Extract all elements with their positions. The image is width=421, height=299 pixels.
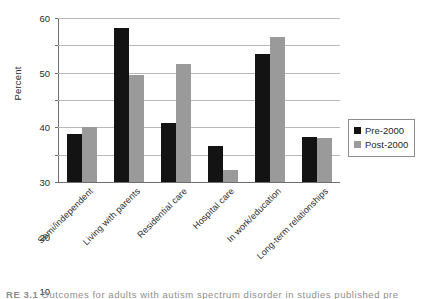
- y-tick-mark: 30: [55, 100, 58, 101]
- bar: [82, 127, 97, 182]
- bar-group: [114, 18, 144, 182]
- figure-caption-text: Outcomes for adults with autism spectrum…: [42, 289, 399, 299]
- y-tick-mark: 20: [55, 127, 58, 128]
- bar: [270, 37, 285, 182]
- figure-caption: RE 3.1 Outcomes for adults with autism s…: [6, 289, 418, 299]
- legend-label: Post-2000: [365, 138, 408, 152]
- bar: [161, 123, 176, 182]
- legend-label: Pre-2000: [365, 124, 404, 138]
- y-tick-mark: 40: [55, 73, 58, 74]
- y-tick-mark: 60: [55, 18, 58, 19]
- y-axis-title: Percent: [12, 49, 23, 119]
- y-tick-label: 40: [39, 122, 50, 133]
- bar: [255, 54, 270, 182]
- bar: [114, 28, 129, 182]
- y-tick-label: 30: [39, 177, 50, 188]
- x-tick-label: Residential care: [135, 186, 189, 240]
- x-tick-label: Hospital care: [191, 186, 236, 231]
- figure-container: Percent 0102030405060 Semi/independentLi…: [0, 0, 421, 299]
- legend-item: Pre-2000: [354, 124, 408, 138]
- bar-group: [161, 18, 191, 182]
- x-axis-line: [58, 182, 340, 183]
- legend-swatch: [354, 141, 361, 148]
- bar-group: [208, 18, 238, 182]
- bar: [317, 138, 332, 182]
- bar-groups: [59, 18, 340, 182]
- bar: [223, 170, 238, 182]
- y-tick-mark: 50: [55, 45, 58, 46]
- x-axis-labels: Semi/independentLiving with parentsResid…: [58, 186, 340, 281]
- bar: [67, 134, 82, 182]
- bar: [129, 75, 144, 182]
- legend-item: Post-2000: [354, 138, 408, 152]
- bar: [208, 146, 223, 182]
- y-tick-mark: 0: [55, 182, 58, 183]
- bar: [302, 137, 317, 182]
- y-tick-label: 60: [39, 13, 50, 24]
- legend: Pre-2000Post-2000: [348, 119, 415, 157]
- bar-group: [302, 18, 332, 182]
- figure-number: RE 3.1: [6, 289, 38, 299]
- bar: [176, 64, 191, 182]
- plot-area: 0102030405060: [58, 18, 340, 183]
- y-tick-label: 50: [39, 67, 50, 78]
- bar-group: [67, 18, 97, 182]
- bar-group: [255, 18, 285, 182]
- legend-swatch: [354, 127, 361, 134]
- y-tick-mark: 10: [55, 155, 58, 156]
